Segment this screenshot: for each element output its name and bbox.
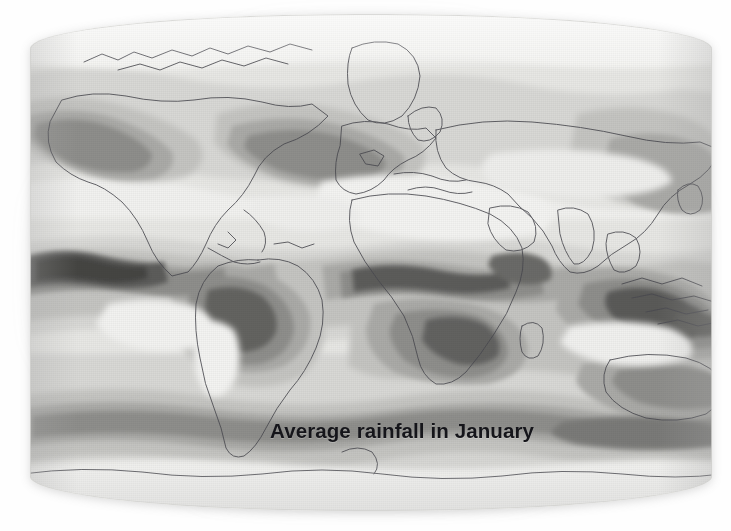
map-title: Average rainfall in January <box>270 419 534 443</box>
screenshot-stage: Average rainfall in January <box>0 0 731 531</box>
map-page: Average rainfall in January <box>30 14 712 511</box>
map-page-inner: Average rainfall in January <box>30 14 712 511</box>
